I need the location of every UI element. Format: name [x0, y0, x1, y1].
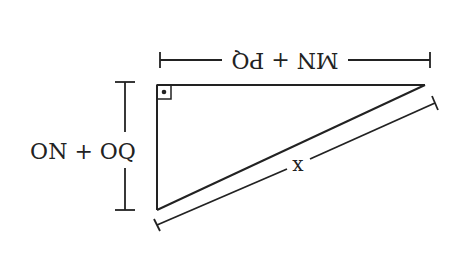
right-angle-marker — [157, 85, 171, 99]
top-side-label: MN + PQ — [231, 48, 338, 73]
hypotenuse — [157, 85, 425, 210]
right-triangle — [157, 85, 425, 210]
triangle-diagram: MN + PQ ON + OQ x — [0, 0, 457, 256]
left-side-label: ON + OQ — [30, 139, 136, 164]
diagram-canvas: MN + PQ ON + OQ x — [0, 0, 457, 256]
hypotenuse-label: x — [292, 152, 304, 176]
right-angle-dot — [162, 90, 167, 95]
